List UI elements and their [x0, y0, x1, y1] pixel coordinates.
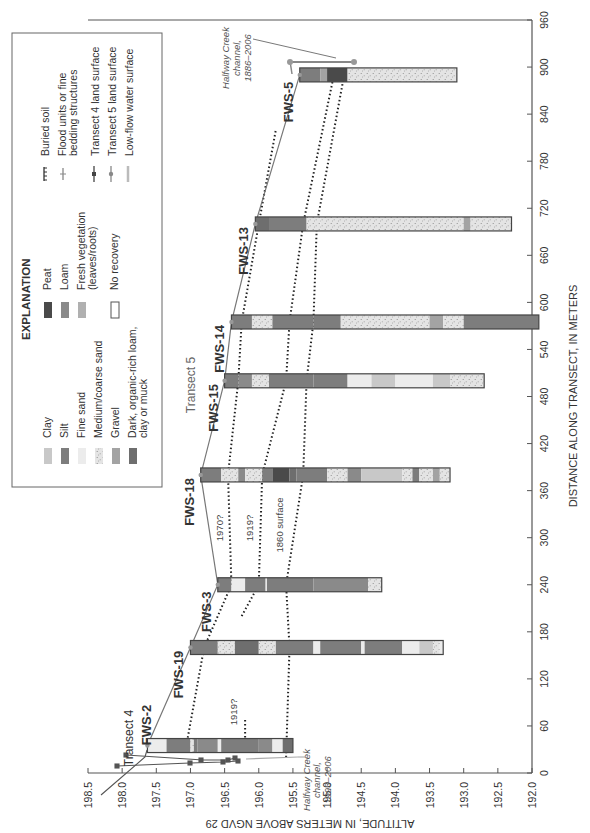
- legend-label: Low-flow water surface: [123, 48, 135, 156]
- legend-label: Transect 5 land surface: [106, 47, 118, 156]
- distance-tick-label: 660: [538, 246, 550, 264]
- core-unit-fine_sand: [272, 739, 282, 753]
- core-unit-medium_sand: [320, 217, 463, 231]
- core-unit-silt: [296, 468, 327, 482]
- core-unit-fine_sand: [266, 578, 267, 592]
- core-unit-silt: [272, 315, 313, 329]
- core-unit-medium_sand: [252, 374, 269, 388]
- altitude-tick-label: 198.5: [82, 782, 94, 808]
- core-label-fws-18: FWS-18: [182, 478, 197, 526]
- core-fws-13: FWS-13: [236, 217, 511, 275]
- core-unit-medium_sand: [433, 641, 440, 655]
- legend-label: Gravel: [109, 407, 121, 438]
- legend-label: (leaves/roots): [86, 226, 98, 290]
- core-label-fws-2: FWS-2: [139, 705, 154, 745]
- core-unit-medium_sand: [190, 739, 193, 753]
- creek-1993-label-3: 1993–2006: [322, 756, 333, 804]
- core-unit-silt: [167, 739, 191, 753]
- transect5-label: Transect 5: [184, 357, 198, 414]
- distance-tick-label: 120: [538, 670, 550, 688]
- core-label-fws-5: FWS-5: [281, 82, 296, 122]
- core-unit-silt: [300, 68, 320, 82]
- core-unit-fine_sand: [402, 641, 419, 655]
- core-unit-loam: [313, 578, 368, 592]
- horizon-line: [242, 75, 334, 616]
- core-fws-19: FWS-19: [171, 641, 443, 699]
- core-fws-14: FWS-14: [212, 315, 538, 373]
- core-label-fws-19: FWS-19: [171, 651, 186, 699]
- legend-label: clay or muck: [137, 378, 149, 438]
- core-label-fws-14: FWS-14: [212, 324, 227, 372]
- core-unit-dark_organic: [235, 641, 259, 655]
- core-unit-silt: [464, 315, 539, 329]
- legend-label: bedding structures: [67, 70, 79, 156]
- distance-axis-ticks: 0601201802403003604204805406006607207808…: [527, 11, 550, 776]
- cross-section-chart: 0601201802403003604204805406006607207808…: [0, 0, 590, 833]
- core-unit-silt: [313, 374, 347, 388]
- legend-label: Peat: [41, 268, 53, 290]
- core-unit-medium_sand: [218, 641, 235, 655]
- core-label-fws-3: FWS-3: [199, 592, 214, 632]
- creek-1886-label-2: channel,: [231, 40, 242, 76]
- core-unit-clay: [361, 468, 402, 482]
- distance-tick-label: 960: [538, 11, 550, 29]
- legend-swatch: [78, 302, 86, 318]
- core-unit-fine_sand: [313, 641, 320, 655]
- altitude-tick-label: 194.0: [389, 782, 401, 808]
- core-fws-15: FWS-15: [206, 374, 485, 432]
- core-unit-silt: [194, 739, 197, 753]
- legend-label: No recovery: [108, 233, 120, 290]
- legend-label: Clay: [41, 416, 53, 438]
- core-fws-3: FWS-3: [199, 578, 382, 632]
- core-unit-medium_sand: [450, 374, 484, 388]
- legend-swatch: [44, 448, 52, 464]
- core-unit-medium_sand: [259, 641, 276, 655]
- core-fws-2: [145, 739, 293, 753]
- core-unit-silt: [313, 315, 340, 329]
- altitude-tick-label: 194.5: [355, 782, 367, 808]
- altitude-tick-label: 197.5: [150, 782, 162, 808]
- legend-swatch: [61, 448, 69, 464]
- core-unit-silt: [231, 315, 251, 329]
- core-unit-medium_sand: [382, 315, 430, 329]
- distance-tick-label: 60: [538, 720, 550, 732]
- legend-swatch: [112, 448, 120, 464]
- legend-label: Fine sand: [75, 392, 87, 438]
- legend-title: EXPLANATION: [20, 258, 32, 340]
- distance-tick-label: 300: [538, 529, 550, 547]
- core-unit-medium_sand: [348, 68, 403, 82]
- core-unit-medium_sand: [368, 578, 382, 592]
- distance-tick-label: 480: [538, 388, 550, 406]
- altitude-tick-label: 196.0: [253, 782, 265, 808]
- core-unit-fine_sand: [231, 578, 245, 592]
- core-unit-gravel: [433, 468, 440, 482]
- distance-tick-label: 240: [538, 576, 550, 594]
- legend-swatch: [61, 302, 69, 318]
- distance-axis-label: DISTANCE ALONG TRANSECT, IN METERS: [567, 285, 579, 508]
- horizon-1919-label-2: 1919?: [228, 699, 239, 725]
- altitude-tick-label: 195.5: [287, 782, 299, 808]
- core-unit-silt: [276, 641, 314, 655]
- altitude-tick-label: 192.0: [526, 782, 538, 808]
- core-unit-fine_sand: [395, 374, 433, 388]
- altitude-tick-label: 197.0: [184, 782, 196, 808]
- core-label-fws-15: FWS-15: [206, 384, 221, 432]
- core-unit-peat: [327, 68, 347, 82]
- distance-tick-label: 0: [538, 770, 550, 776]
- core-unit-gravel: [320, 68, 327, 82]
- distance-tick-label: 840: [538, 105, 550, 123]
- core-unit-loam: [238, 468, 245, 482]
- legend-swatch: [111, 302, 119, 318]
- core-unit-clay: [419, 641, 433, 655]
- core-unit-silt: [269, 217, 307, 231]
- distance-tick-label: 780: [538, 152, 550, 170]
- core-unit-fine_sand: [361, 641, 364, 655]
- core-unit-dark_organic: [290, 468, 297, 482]
- core-unit-fine_sand: [348, 374, 372, 388]
- distance-tick-label: 180: [538, 623, 550, 641]
- core-unit-silt: [245, 578, 265, 592]
- legend-swatch: [129, 448, 137, 464]
- core-unit-medium_sand: [252, 315, 272, 329]
- core-fws-5: FWS-5: [281, 68, 457, 122]
- core-unit-medium_sand: [402, 68, 457, 82]
